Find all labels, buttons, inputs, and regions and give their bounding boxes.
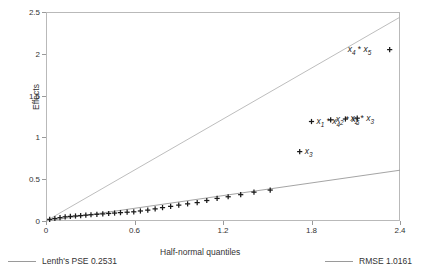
x-tick-label: 0 [44,226,48,235]
x-tick-mark [46,221,47,225]
x-tick-label: 1.2 [217,226,228,235]
legend-lenths-pse: Lenth's PSE 0.2531 [8,256,117,266]
x-tick-mark [400,221,401,225]
y-tick-label: 0.5 [0,175,40,184]
x-tick-label: 0.6 [129,226,140,235]
point-label: x4 * x5 [348,44,372,56]
x-tick-label: 1.8 [306,226,317,235]
x-tick-mark [223,221,224,225]
x-tick-mark [135,221,136,225]
y-tick-label: 2 [0,49,40,58]
x-axis-label: Half-normal quantiles [160,247,240,257]
half-normal-plot: Effects Half-normal quantiles 00.511.522… [0,0,424,275]
legend-label-rmse: RMSE 1.0161 [359,256,412,266]
y-tick-mark [42,96,46,97]
y-tick-mark [42,137,46,138]
point-label: x3 [305,146,313,158]
legend-label-pse: Lenth's PSE 0.2531 [42,256,117,266]
x-tick-label: 2.4 [394,226,405,235]
y-tick-mark [42,54,46,55]
y-tick-label: 1.5 [0,91,40,100]
legend-line-swatch-pse [8,261,36,262]
y-tick-mark [42,12,46,13]
y-tick-label: 1 [0,133,40,142]
legend-line-swatch-rmse [325,261,353,262]
y-tick-label: 2.5 [0,8,40,17]
x-tick-mark [312,221,313,225]
point-label: x2 * x3 [350,113,374,125]
y-tick-mark [42,179,46,180]
y-tick-label: 0 [0,217,40,226]
legend-rmse: RMSE 1.0161 [325,256,412,266]
